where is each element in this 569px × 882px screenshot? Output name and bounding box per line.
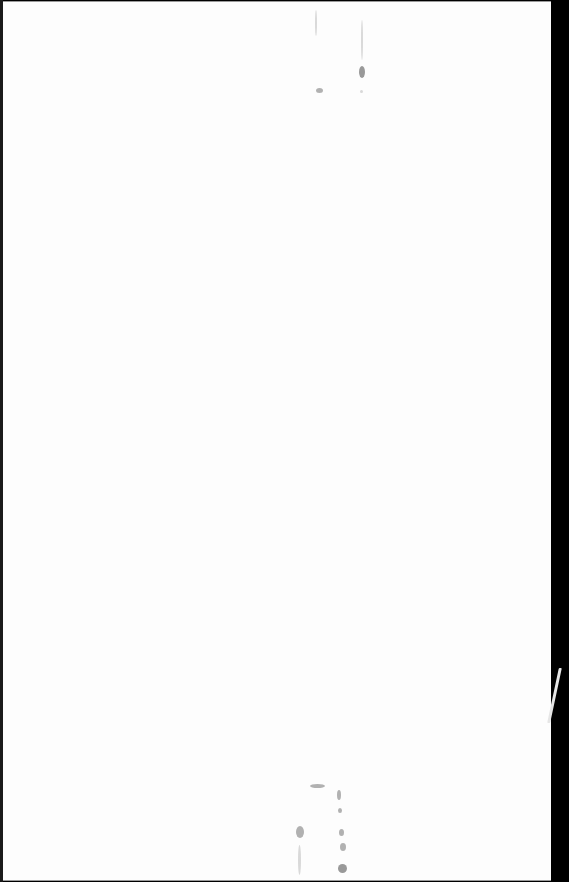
right-scan-border	[551, 0, 569, 882]
scanned-document	[0, 0, 569, 882]
top-binding-mark	[360, 90, 363, 93]
bottom-binding-mark	[338, 864, 347, 873]
bottom-binding-mark	[340, 843, 346, 851]
bottom-binding-mark	[337, 790, 341, 800]
blank-page	[3, 1, 551, 881]
bottom-binding-mark	[310, 784, 325, 788]
bottom-binding-mark	[338, 808, 342, 813]
bottom-binding-mark	[339, 829, 344, 836]
bottom-binding-mark	[296, 826, 304, 838]
top-binding-mark	[315, 10, 317, 36]
top-binding-mark	[359, 66, 365, 78]
top-binding-mark	[316, 88, 323, 93]
top-binding-mark	[361, 20, 363, 60]
bottom-binding-mark	[298, 845, 301, 875]
